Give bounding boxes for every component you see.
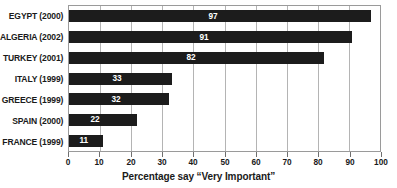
- x-axis-title: Percentage say “Very Important”: [0, 171, 397, 182]
- bar: 22: [69, 114, 137, 126]
- bar-value-label: 32: [111, 95, 120, 104]
- bar-row: 22: [69, 110, 380, 131]
- x-tick-label: 40: [189, 157, 198, 167]
- bar: 82: [69, 52, 324, 64]
- bar-value-label: 97: [208, 12, 217, 21]
- bar-value-label: 22: [90, 115, 99, 124]
- bar-value-label: 91: [200, 33, 209, 42]
- x-tick-label: 100: [374, 157, 388, 167]
- bar-row: 97: [69, 6, 380, 27]
- bar-row: 32: [69, 89, 380, 110]
- bar-row: 82: [69, 47, 380, 68]
- category-label: TURKEY (2001): [5, 47, 66, 68]
- bar-value-label: 33: [112, 74, 121, 83]
- category-axis-labels: EGYPT (2000)ALGERIA (2002)TURKEY (2001)I…: [0, 5, 66, 152]
- bar: 91: [69, 31, 352, 43]
- bar-series: 97918233322211: [69, 6, 380, 151]
- bar-row: 11: [69, 130, 380, 151]
- bar: 11: [69, 135, 103, 147]
- x-axis-tick-labels: 0102030405060708090100: [68, 157, 381, 170]
- x-tick-label: 70: [282, 157, 291, 167]
- bar-row: 33: [69, 68, 380, 89]
- bar: 97: [69, 10, 371, 22]
- category-label: FRANCE (1999): [5, 131, 66, 152]
- x-tick-label: 0: [66, 157, 71, 167]
- x-tick-label: 20: [126, 157, 135, 167]
- bar-value-label: 11: [80, 136, 89, 145]
- x-tick-label: 90: [345, 157, 354, 167]
- bar-row: 91: [69, 27, 380, 48]
- x-tick-label: 30: [157, 157, 166, 167]
- plot-area: 97918233322211: [68, 5, 381, 152]
- bar-value-label: 82: [187, 53, 196, 62]
- category-label: GREECE (1999): [5, 89, 66, 110]
- bar: 33: [69, 73, 172, 85]
- x-tick-label: 60: [251, 157, 260, 167]
- category-label: ALGERIA (2002): [5, 26, 66, 47]
- x-tick-label: 10: [95, 157, 104, 167]
- category-label: EGYPT (2000): [5, 5, 66, 26]
- bar-chart: EGYPT (2000)ALGERIA (2002)TURKEY (2001)I…: [0, 0, 397, 188]
- x-tick-label: 50: [220, 157, 229, 167]
- x-tick-label: 80: [314, 157, 323, 167]
- category-label: SPAIN (2000): [5, 110, 66, 131]
- category-label: ITALY (1999): [5, 68, 66, 89]
- bar: 32: [69, 93, 169, 105]
